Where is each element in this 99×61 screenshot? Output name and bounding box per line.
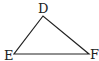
vertex-label-e: E [4, 48, 14, 61]
vertex-label-f: F [90, 47, 99, 61]
triangle-def [14, 16, 89, 54]
triangle-diagram: D E F [0, 0, 99, 61]
vertex-label-d: D [38, 1, 48, 16]
